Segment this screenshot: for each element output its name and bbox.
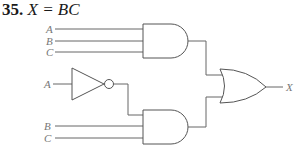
and-gate-1 bbox=[143, 24, 188, 58]
or-gate bbox=[220, 69, 266, 103]
wire-and2-to-or bbox=[188, 97, 224, 127]
output-label-x: X bbox=[285, 81, 294, 93]
input-label-a1: A bbox=[45, 23, 53, 35]
logic-circuit: A B C A B C X bbox=[0, 0, 307, 153]
input-label-a2: A bbox=[43, 78, 51, 90]
inverter-bubble-icon bbox=[105, 80, 114, 89]
wire-and1-to-or bbox=[188, 41, 224, 75]
input-label-c1: C bbox=[46, 46, 54, 58]
input-label-c2: C bbox=[44, 132, 52, 144]
and-gate-2 bbox=[143, 110, 188, 144]
input-label-b2: B bbox=[44, 120, 51, 132]
wire-not-to-and2 bbox=[114, 84, 143, 115]
not-gate bbox=[72, 68, 104, 100]
